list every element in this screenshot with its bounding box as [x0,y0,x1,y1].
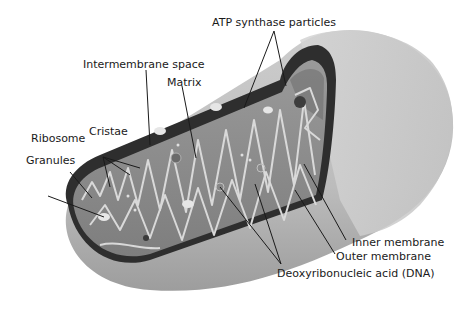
label-ribosome: Ribosome [31,132,86,145]
label-inner-membrane: Inner membrane [352,236,444,249]
label-outer-membrane: Outer membrane [336,250,431,263]
label-dna: Deoxyribonucleic acid (DNA) [277,267,435,280]
label-atp-synthase: ATP synthase particles [212,16,336,29]
mitochondrion-diagram: ATP synthase particles Intermembrane spa… [0,0,472,313]
label-granules: Granules [26,154,76,167]
label-cristae: Cristae [89,125,128,138]
label-matrix: Matrix [167,76,202,89]
label-intermembrane-space: Intermembrane space [83,58,205,71]
